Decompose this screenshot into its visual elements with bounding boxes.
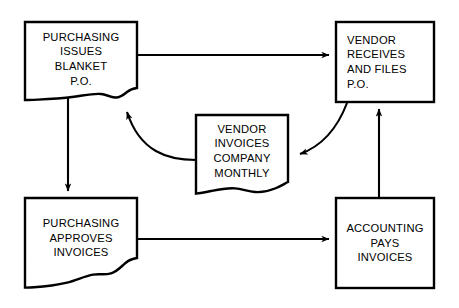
- node-shape-accounting-pays: [336, 198, 434, 288]
- flow-diagram: PURCHASING ISSUES BLANKET P.O. VENDOR RE…: [0, 0, 459, 308]
- connector-receives-to-invoices: [300, 103, 347, 154]
- node-shape-purchasing-issues: [25, 22, 137, 100]
- node-shape-vendor-receives: [336, 22, 434, 102]
- connector-invoices-to-issues: [127, 112, 196, 160]
- node-shape-vendor-invoices: [196, 115, 288, 194]
- node-shape-purchasing-approves: [25, 198, 137, 288]
- diagram-canvas: [0, 0, 459, 308]
